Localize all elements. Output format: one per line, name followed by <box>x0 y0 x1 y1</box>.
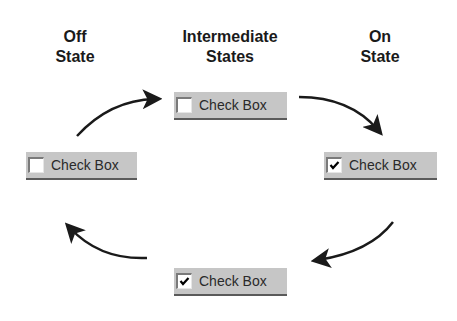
arrow-intermediate-to-off <box>70 228 147 258</box>
arrow-off-to-intermediate <box>77 99 155 136</box>
arrow-on-to-intermediate <box>318 222 393 260</box>
arrow-intermediate-to-on <box>299 97 378 130</box>
cycle-arrows <box>0 0 457 321</box>
